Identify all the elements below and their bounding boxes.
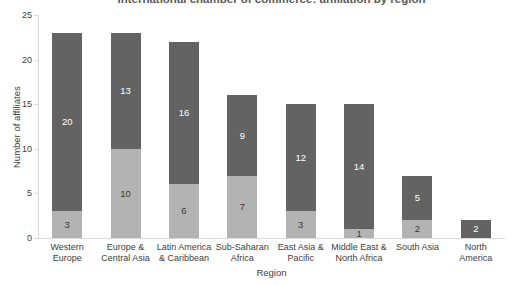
bar-segment: 14 (344, 104, 374, 229)
category-label: Middle East & North Africa (331, 242, 387, 263)
bar-segment: 20 (52, 33, 82, 211)
category-label: Europe & Central Asia (97, 242, 153, 263)
segment-value-label: 14 (354, 162, 365, 172)
y-tick-label: 0 (10, 233, 32, 243)
y-tick-mark (34, 193, 38, 194)
bar-segment: 3 (52, 211, 82, 238)
bar-segment: 6 (169, 184, 199, 238)
bar-segment: 12 (286, 104, 316, 211)
bar-segment: 5 (402, 176, 432, 221)
segment-value-label: 10 (120, 189, 131, 199)
segment-value-label: 2 (415, 224, 420, 234)
y-tick-label: 15 (10, 99, 32, 109)
stacked-bar-chart: International chamber of commerce: affil… (0, 0, 512, 285)
category-label: Sub-Saharan Africa (214, 242, 270, 263)
category-label: Latin America & Caribbean (156, 242, 212, 263)
segment-value-label: 3 (298, 220, 303, 230)
y-tick-label: 5 (10, 188, 32, 198)
segment-value-label: 9 (240, 131, 245, 141)
y-tick-label: 10 (10, 144, 32, 154)
category-label: South Asia (389, 242, 445, 253)
segment-value-label: 6 (181, 206, 186, 216)
category-label: North America (448, 242, 504, 263)
y-tick-mark (34, 15, 38, 16)
y-tick-mark (34, 149, 38, 150)
category-label: East Asia & Pacific (273, 242, 329, 263)
segment-value-label: 20 (62, 117, 73, 127)
y-tick-label: 25 (10, 10, 32, 20)
x-axis-label: Region (38, 267, 505, 278)
bar-segment: 2 (402, 220, 432, 238)
segment-value-label: 16 (179, 108, 190, 118)
segment-value-label: 13 (120, 86, 131, 96)
bar-segment: 3 (286, 211, 316, 238)
bar-segment: 9 (227, 95, 257, 175)
chart-title: International chamber of commerce: affil… (38, 0, 505, 5)
segment-value-label: 2 (473, 224, 478, 234)
bar-segment: 16 (169, 42, 199, 185)
segment-value-label: 7 (240, 202, 245, 212)
bar-segment: 10 (111, 149, 141, 238)
bar-segment: 13 (111, 33, 141, 149)
segment-value-label: 12 (295, 153, 306, 163)
x-axis-line (38, 238, 505, 239)
bar-segment: 2 (461, 220, 491, 238)
segment-value-label: 5 (415, 193, 420, 203)
y-tick-label: 20 (10, 55, 32, 65)
segment-value-label: 3 (65, 220, 70, 230)
y-tick-mark (34, 60, 38, 61)
y-tick-mark (34, 238, 38, 239)
segment-value-label: 1 (356, 229, 361, 239)
bar-segment: 7 (227, 176, 257, 238)
y-axis-line (38, 15, 39, 238)
category-label: Western Europe (39, 242, 95, 263)
bar-segment: 1 (344, 229, 374, 238)
y-tick-mark (34, 104, 38, 105)
